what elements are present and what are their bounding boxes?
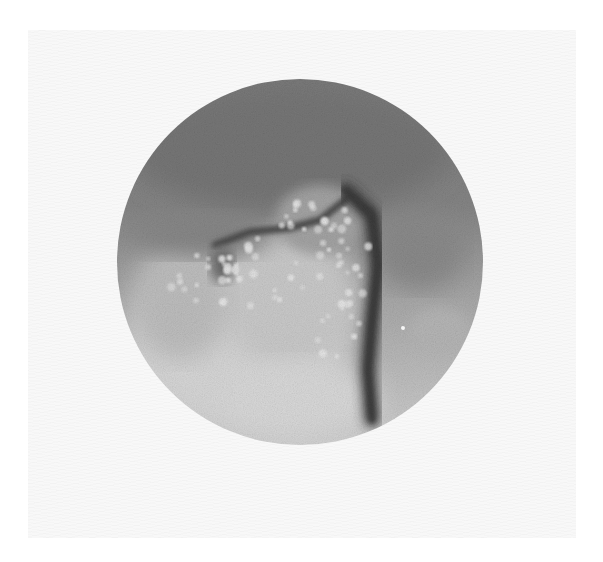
endoscopic-field-photo xyxy=(117,79,483,445)
figure-page xyxy=(0,0,603,562)
photo-render xyxy=(117,79,483,445)
